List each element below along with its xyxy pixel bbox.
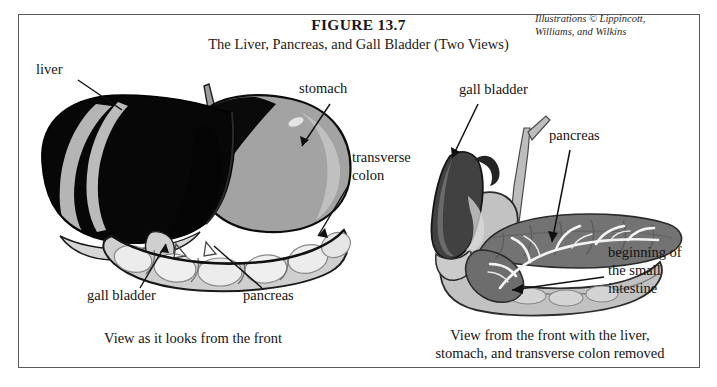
label-gall-bladder-left: gall bladder [87,288,156,304]
label-stomach: stomach [299,81,347,97]
figure-container: FIGURE 13.7 The Liver, Pancreas, and Gal… [0,0,717,387]
right-view-caption: View from the front with the liver, stom… [400,326,700,362]
label-liver: liver [36,62,63,78]
figure-frame-border [18,14,700,368]
label-pancreas-left: pancreas [243,288,294,304]
credit-line-2: Williams, and Wilkins [535,25,695,38]
left-view-caption: View as it looks from the front [48,329,338,347]
label-transverse-colon-line1: transverse [352,150,411,166]
label-small-intestine-line1: beginning of [608,245,682,261]
credit-block: Illustrations © Lippincott, Williams, an… [535,12,695,38]
label-gall-bladder-right: gall bladder [459,82,528,98]
right-view-caption-line-2: stomach, and transverse colon removed [400,344,700,362]
label-transverse-colon-line2: colon [352,168,384,184]
figure-subtitle: The Liver, Pancreas, and Gall Bladder (T… [0,36,717,53]
label-small-intestine-line2: the small [608,263,661,279]
right-view-caption-line-1: View from the front with the liver, [400,326,700,344]
label-pancreas-right: pancreas [549,128,600,144]
credit-line-1: Illustrations © Lippincott, [535,12,695,25]
label-small-intestine-line3: intestine [608,281,657,297]
